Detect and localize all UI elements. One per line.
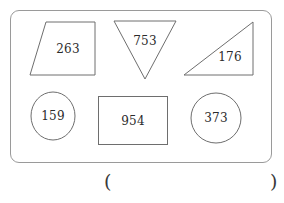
shape-circle-right[interactable]: 373 — [189, 90, 245, 146]
shape-right-triangle[interactable]: 176 — [182, 18, 256, 78]
answer-open-paren: ( — [104, 172, 111, 191]
shape-label-circle-right: 373 — [194, 112, 238, 124]
right-triangle-outline — [182, 18, 256, 78]
answer-row: ( ) — [0, 168, 284, 198]
inverted-triangle-outline — [111, 18, 181, 82]
shape-label-inverted-triangle: 753 — [123, 35, 167, 47]
shape-label-circle-left: 159 — [31, 110, 75, 122]
shape-inverted-triangle[interactable]: 753 — [111, 18, 181, 82]
shape-circle-left[interactable]: 159 — [29, 90, 79, 142]
shape-rectangle[interactable]: 954 — [96, 94, 170, 148]
shape-trapezoid[interactable]: 263 — [26, 18, 100, 78]
worksheet-page: 263 753 176 159 954 373 ( ) — [0, 0, 284, 203]
answer-close-paren: ) — [270, 172, 277, 191]
shape-label-rectangle: 954 — [111, 115, 155, 127]
shape-label-right-triangle: 176 — [208, 51, 252, 63]
shape-label-trapezoid: 263 — [46, 43, 90, 55]
